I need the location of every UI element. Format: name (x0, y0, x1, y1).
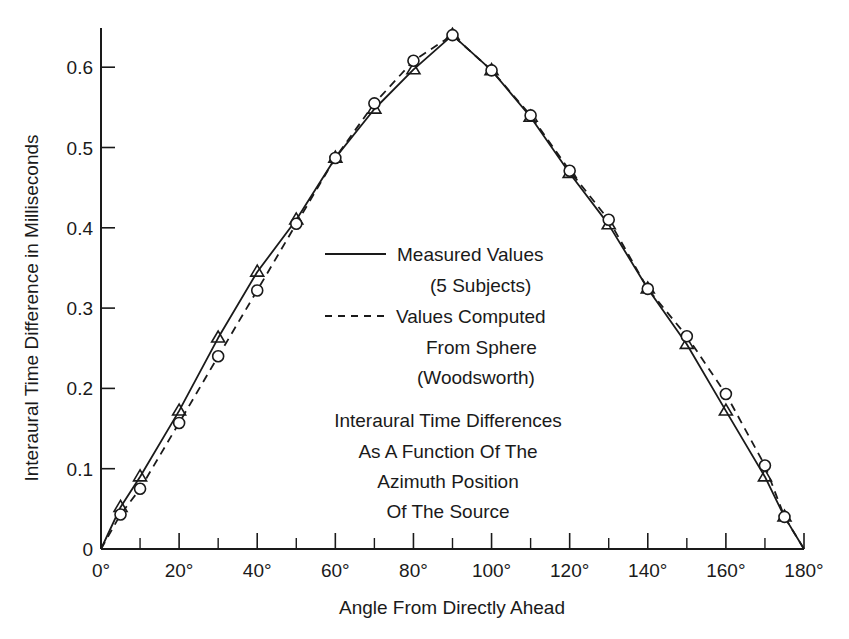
y-tick-label: 0 (82, 539, 93, 560)
y-axis-title: Interaural Time Difference in Millisecon… (21, 134, 42, 481)
circle-marker (408, 55, 419, 66)
chart-title: Interaural Time DifferencesAs A Function… (334, 410, 562, 522)
legend: Measured Values(5 Subjects)Values Comput… (325, 244, 546, 388)
circle-marker (525, 110, 536, 121)
triangle-marker (719, 404, 732, 415)
circle-marker (369, 98, 380, 109)
circle-marker (603, 214, 614, 225)
x-tick-label: 140° (628, 560, 667, 581)
x-tick-label: 40° (243, 560, 272, 581)
circle-marker (252, 285, 263, 296)
x-tick-label: 20° (165, 560, 194, 581)
x-tick-label: 60° (321, 560, 350, 581)
y-tick-label: 0.4 (67, 218, 94, 239)
triangle-marker (173, 404, 186, 415)
legend-computed-sublabel: (Woodsworth) (417, 367, 535, 388)
chart-title-line: As A Function Of The (358, 441, 537, 462)
y-tick-label: 0.3 (67, 298, 93, 319)
y-tick-label: 0.1 (67, 459, 93, 480)
interaural-time-difference-chart: 0°20°40°60°80°100°120°140°160°180°00.10.… (0, 0, 849, 639)
legend-computed-sublabel: From Sphere (426, 337, 537, 358)
x-tick-label: 180° (784, 560, 823, 581)
triangle-marker (212, 331, 225, 342)
circle-marker (447, 30, 458, 41)
x-tick-label: 160° (706, 560, 745, 581)
chart-title-line: Interaural Time Differences (334, 410, 562, 431)
chart-title-line: Of The Source (386, 501, 509, 522)
chart-title-line: Azimuth Position (377, 471, 519, 492)
circle-marker (330, 152, 341, 163)
circle-marker (486, 65, 497, 76)
x-tick-label: 100° (472, 560, 511, 581)
circle-marker (213, 351, 224, 362)
circle-marker (681, 331, 692, 342)
legend-measured-sublabel: (5 Subjects) (430, 275, 531, 296)
y-tick-label: 0.5 (67, 138, 93, 159)
x-tick-label: 120° (550, 560, 589, 581)
legend-computed-label: Values Computed (396, 306, 546, 327)
circle-marker (720, 389, 731, 400)
circle-marker (759, 460, 770, 471)
legend-measured-label: Measured Values (397, 244, 543, 265)
circle-marker (174, 417, 185, 428)
circle-marker (291, 218, 302, 229)
circle-marker (564, 165, 575, 176)
x-axis-title: Angle From Directly Ahead (339, 597, 565, 618)
circle-marker (642, 283, 653, 294)
circle-marker (779, 511, 790, 522)
circle-marker (115, 509, 126, 520)
x-tick-label: 80° (399, 560, 428, 581)
x-tick-label: 0° (92, 560, 110, 581)
circle-marker (135, 483, 146, 494)
y-tick-label: 0.6 (67, 57, 93, 78)
y-tick-label: 0.2 (67, 378, 93, 399)
triangle-marker (134, 470, 147, 481)
